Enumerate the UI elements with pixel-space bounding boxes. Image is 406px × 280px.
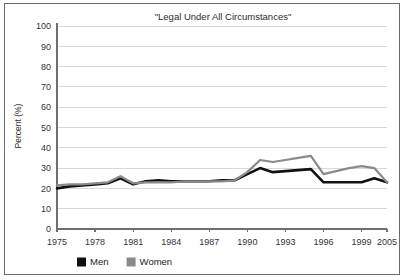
y-tick-label: 50 <box>41 123 51 133</box>
x-tick-label: 2005 <box>377 237 397 247</box>
y-axis-ticks: 0102030405060708090100 <box>36 21 51 234</box>
y-tick-label: 30 <box>41 163 51 173</box>
x-tick-label: 1993 <box>275 237 295 247</box>
x-tick-label: 1987 <box>199 237 219 247</box>
chart-legend: MenWomen <box>77 256 172 267</box>
legend-label-men: Men <box>90 256 108 267</box>
chart-figure: "Legal Under All Circumstances" 01020304… <box>4 3 400 275</box>
data-series <box>57 156 387 188</box>
y-tick-label: 70 <box>41 82 51 92</box>
gridlines <box>57 26 387 229</box>
y-tick-label: 80 <box>41 62 51 72</box>
chart-title: "Legal Under All Circumstances" <box>155 11 292 22</box>
y-tick-label: 60 <box>41 102 51 112</box>
legend-swatch-women <box>127 258 136 267</box>
x-axis-ticks: 1975197819811984198719901993199619992005 <box>47 229 397 247</box>
x-tick-label: 1996 <box>314 237 334 247</box>
x-tick-label: 1981 <box>123 237 143 247</box>
x-tick-label: 1999 <box>352 237 372 247</box>
y-tick-label: 0 <box>46 224 51 234</box>
legend-swatch-men <box>77 258 86 267</box>
line-chart: "Legal Under All Circumstances" 01020304… <box>5 4 399 274</box>
y-axis-title: Percent (%) <box>13 103 23 148</box>
y-tick-label: 40 <box>41 143 51 153</box>
y-tick-label: 20 <box>41 184 51 194</box>
x-tick-label: 1990 <box>237 237 257 247</box>
x-tick-label: 1978 <box>85 237 105 247</box>
y-tick-label: 100 <box>36 21 51 31</box>
x-tick-label: 1975 <box>47 237 67 247</box>
legend-label-women: Women <box>140 256 173 267</box>
y-tick-label: 90 <box>41 42 51 52</box>
y-tick-label: 10 <box>41 204 51 214</box>
x-tick-label: 1984 <box>161 237 181 247</box>
series-line-women <box>57 156 387 185</box>
